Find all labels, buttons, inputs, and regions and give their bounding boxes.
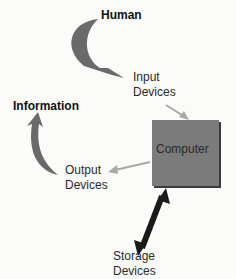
- computer-label: Computer: [156, 142, 209, 156]
- human-to-input-arrow: [71, 19, 124, 78]
- input-devices-label: Input Devices: [133, 70, 176, 100]
- output-arrowhead: [108, 165, 118, 174]
- information-label: Information: [13, 99, 79, 114]
- storage-devices-label: Storage Devices: [113, 249, 156, 279]
- computer-storage-double-arrow: [134, 188, 170, 256]
- computer-to-output-arrow: [115, 162, 150, 170]
- storage-label-line2: Devices: [113, 264, 156, 279]
- input-label-line2: Devices: [133, 85, 176, 100]
- computer-box: Computer: [152, 120, 219, 186]
- output-label-line1: Output: [65, 163, 108, 178]
- storage-label-line1: Storage: [113, 249, 156, 264]
- input-label-line1: Input: [133, 70, 176, 85]
- output-devices-label: Output Devices: [65, 163, 108, 193]
- input-arrowhead: [179, 111, 189, 120]
- output-to-information-arrow: [27, 112, 58, 175]
- human-label: Human: [101, 8, 142, 23]
- output-label-line2: Devices: [65, 178, 108, 193]
